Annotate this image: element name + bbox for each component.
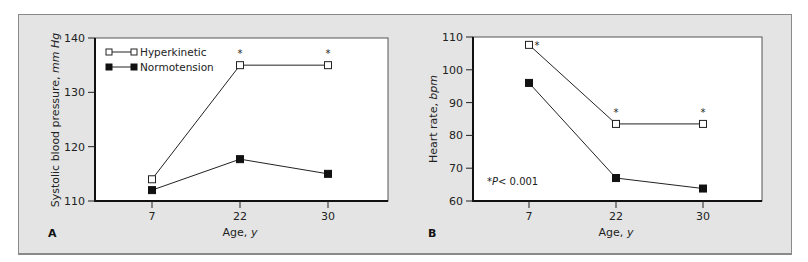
filled-square-marker-icon xyxy=(237,156,244,163)
open-square-marker-icon xyxy=(149,176,156,183)
open-square-marker-icon xyxy=(613,120,620,127)
open-square-marker-icon xyxy=(325,62,332,69)
filled-square-marker-icon xyxy=(325,170,332,177)
x-tick-label: 7 xyxy=(526,210,533,223)
figure-canvas: 110120130140 72230 ** Hyperkinetic Normo… xyxy=(0,0,808,262)
y-tick-label: 90 xyxy=(449,97,463,110)
open-square-marker-icon xyxy=(526,41,533,48)
x-tick-label: 22 xyxy=(233,210,247,223)
y-tick-label: 140 xyxy=(64,32,85,45)
open-square-marker-icon xyxy=(106,49,112,55)
y-tick-label: 110 xyxy=(442,31,463,44)
y-tick-label: 80 xyxy=(449,129,463,142)
significance-star: * xyxy=(238,48,243,59)
panel-b-x-ticks: 72230 xyxy=(526,201,711,223)
open-square-marker-icon xyxy=(237,62,244,69)
panel-a-y-ticks: 110120130140 xyxy=(64,32,95,208)
significance-star: * xyxy=(535,40,540,51)
x-tick-label: 22 xyxy=(609,210,623,223)
y-tick-label: 60 xyxy=(449,195,463,208)
y-tick-label: 70 xyxy=(449,162,463,175)
panel-a-letter: A xyxy=(48,227,57,240)
x-tick-label: 30 xyxy=(321,210,335,223)
open-square-marker-icon xyxy=(131,49,137,55)
open-square-marker-icon xyxy=(700,120,707,127)
panel-b: 60708090100110 72230 *** *P< 0.001 Heart… xyxy=(427,31,762,240)
filled-square-marker-icon xyxy=(526,79,533,86)
panel-b-y-axis-title: Heart rate, bpm xyxy=(427,75,440,163)
legend-label: Hyperkinetic xyxy=(140,46,207,58)
filled-square-marker-icon xyxy=(106,64,112,70)
filled-square-marker-icon xyxy=(700,185,707,192)
filled-square-marker-icon xyxy=(149,187,156,194)
panel-b-x-axis-title: Age, y xyxy=(599,226,634,239)
significance-star: * xyxy=(701,107,706,118)
y-tick-label: 120 xyxy=(64,141,85,154)
legend-label: Normotension xyxy=(140,61,214,73)
x-tick-label: 30 xyxy=(696,210,710,223)
significance-star: * xyxy=(326,48,331,59)
panel-a-x-ticks: 72230 xyxy=(149,201,336,223)
panel-a-x-axis-title: Age, y xyxy=(223,226,258,239)
y-tick-label: 100 xyxy=(442,64,463,77)
panel-b-y-ticks: 60708090100110 xyxy=(442,31,473,208)
filled-square-marker-icon xyxy=(131,64,137,70)
filled-square-marker-icon xyxy=(613,175,620,182)
significance-star: * xyxy=(614,107,619,118)
y-tick-label: 110 xyxy=(64,195,85,208)
significance-note: *P< 0.001 xyxy=(487,176,538,187)
panel-a: 110120130140 72230 ** Hyperkinetic Normo… xyxy=(48,32,388,240)
panel-b-letter: B xyxy=(428,227,436,240)
panel-a-y-axis-title: Systolic blood pressure, mm Hg xyxy=(49,33,62,208)
y-tick-label: 130 xyxy=(64,86,85,99)
x-tick-label: 7 xyxy=(149,210,156,223)
